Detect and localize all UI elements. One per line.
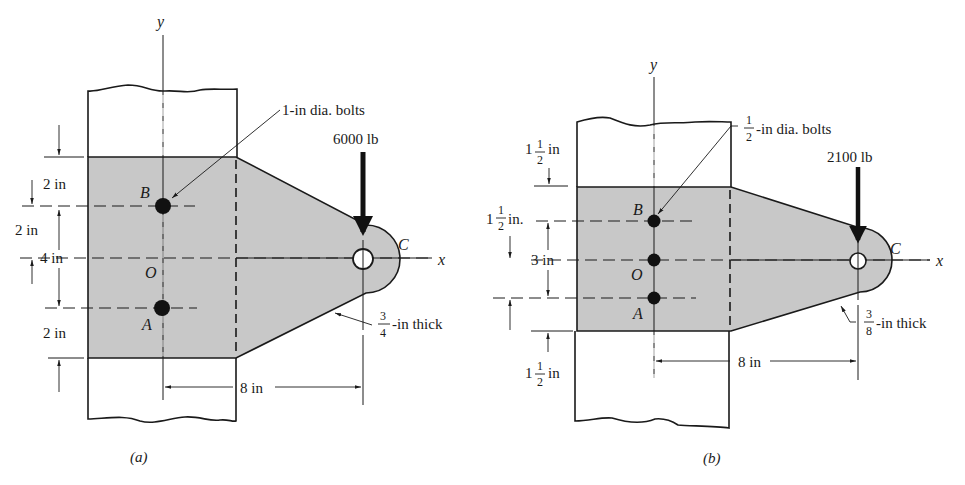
dim-upper-a: 2 in — [15, 222, 38, 238]
dim-top-num-b: 1 — [537, 137, 543, 151]
thickness-den-b: 8 — [866, 324, 872, 338]
figure-b: y x B O A C 2100 lb 1 2 -in dia. bolts — [486, 56, 943, 467]
thickness-num-a: 3 — [380, 309, 386, 323]
load-label-b: 2100 lb — [827, 149, 872, 165]
bolt-label-a: 1-in dia. bolts — [282, 102, 365, 118]
bolt-O-b — [648, 254, 661, 267]
thickness-text-b: -in thick — [876, 315, 927, 331]
bolt-num-b: 1 — [746, 113, 752, 127]
dim-top-a: 2 in — [43, 176, 66, 192]
dim-top-whole-b: 1 — [525, 141, 533, 157]
bracket-diagram: y x B O A C 6000 lb 1-in dia. bolts 3 4 … — [0, 0, 965, 485]
dim-bottom-a: 2 in — [43, 325, 66, 341]
point-A-label-b: A — [632, 305, 643, 322]
caption-b: (b) — [703, 450, 721, 467]
point-O-label-b: O — [631, 266, 643, 283]
x-axis-label-a: x — [437, 251, 445, 268]
caption-a: (a) — [130, 449, 148, 466]
dim-total-a: 4 in — [40, 250, 63, 266]
thickness-num-b: 3 — [866, 307, 872, 321]
dim-bottom-den-b: 2 — [537, 375, 543, 389]
dim-horizontal-b: 8 in — [738, 354, 761, 370]
point-A-label-a: A — [141, 316, 152, 333]
x-axis-label-b: x — [935, 252, 943, 269]
gusset-plate-b — [577, 187, 892, 331]
bolt-B-b — [648, 215, 661, 228]
point-B-label-b: B — [633, 201, 643, 218]
column-a-bottom — [88, 358, 236, 422]
dim-bottom-unit-b: in — [548, 365, 560, 381]
thickness-den-a: 4 — [380, 326, 386, 340]
dim-bottom-whole-b: 1 — [525, 365, 533, 381]
column-b-bottom — [575, 331, 729, 428]
dim-bottom-num-b: 1 — [537, 359, 543, 373]
dim-top-unit-b: in — [548, 141, 560, 157]
dim-upper-whole-b: 1 — [486, 211, 494, 227]
bolt-A-b — [648, 292, 661, 305]
point-C-label-a: C — [398, 236, 409, 253]
point-O-label-a: O — [145, 264, 157, 281]
point-C-label-b: C — [890, 240, 901, 257]
dim-total-b: 3 in — [531, 252, 554, 268]
bolt-B-a — [155, 198, 171, 214]
dim-upper-unit-b: in. — [508, 211, 523, 227]
figure-a: y x B O A C 6000 lb 1-in dia. bolts 3 4 … — [15, 13, 445, 466]
dim-upper-num-b: 1 — [498, 203, 504, 217]
bolt-den-b: 2 — [746, 130, 752, 144]
point-B-label-a: B — [140, 184, 150, 201]
dim-upper-den-b: 2 — [498, 219, 504, 233]
dim-horizontal-a: 8 in — [240, 380, 263, 396]
load-label-a: 6000 lb — [333, 131, 378, 147]
dim-top-den-b: 2 — [537, 153, 543, 167]
thickness-text-a: -in thick — [392, 316, 443, 332]
y-axis-label-a: y — [155, 13, 165, 31]
bolt-A-a — [154, 300, 170, 316]
y-axis-label-b: y — [648, 56, 658, 74]
bolt-text-b: -in dia. bolts — [756, 121, 832, 137]
